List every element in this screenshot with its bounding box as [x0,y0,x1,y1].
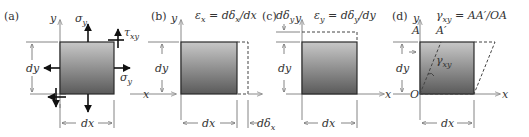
point-a-label: A [411,24,420,37]
panel-a: (a) y σy σy τxy dy dx [4,10,140,130]
dim-dy-label: dy [278,62,292,75]
dim-dx-label: dx [322,117,336,130]
x-axis-label: x [143,88,150,101]
x-axis-label: x [502,88,509,101]
origin-label: O [410,88,419,101]
dim-ddx-label: dδx [257,117,276,132]
stress-element [60,42,114,94]
y-axis-label: y [294,12,302,25]
x-axis-label: x [385,88,392,101]
dim-dx-label: dx [81,117,95,130]
panel-a-label: (a) [4,10,19,23]
dim-ddy-label: dδy [276,9,295,24]
sigma-x-label: σy [120,71,133,86]
strain-element-x [181,42,237,94]
panel-d-label: (d) [392,10,408,23]
dim-dy-label: dy [26,62,40,75]
panel-d: (d) y x γxy = AA′/OA A A′ O γxy dy dx [392,9,509,130]
y-axis-label: y [49,12,57,25]
deformed-outline-x [237,42,248,94]
strain-element-y [302,42,357,94]
panel-c-label: (c) [262,10,277,23]
tau-xy-label: τxy [124,26,140,41]
dim-dx-label: dx [441,117,455,130]
deformed-outline-shear-right [474,42,495,94]
dim-dy-label: dy [155,62,169,75]
stress-strain-diagram: (a) y σy σy τxy dy dx [0,0,529,137]
sigma-y-label: σy [75,12,88,27]
panel-b: (b) y x εx = dδx/dx dy dx dδx [130,9,276,132]
dim-dx-label: dx [202,117,216,130]
shear-strain-equation: γxy = AA′/OA [436,9,507,24]
strain-y-equation: εy = dδy/dy [314,9,377,24]
point-a-prime-label: A′ [435,24,447,37]
dim-dy-label: dy [396,62,410,75]
panel-c: (c) y x εy = dδy/dy dδy dy dx [262,9,392,130]
deformed-outline-y [302,32,357,42]
y-axis-label: y [170,12,178,25]
strain-x-equation: εx = dδx/dx [195,9,258,24]
panel-b-label: (b) [151,10,167,23]
